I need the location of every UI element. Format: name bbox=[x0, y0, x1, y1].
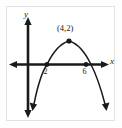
parabola-right-arrow-icon bbox=[102, 102, 110, 111]
y-axis-down-arrow-icon bbox=[24, 110, 31, 118]
x-axis-left-arrow-icon bbox=[9, 61, 17, 68]
vertex-point-marker bbox=[66, 38, 71, 43]
x-axis-label: x bbox=[109, 56, 114, 66]
x-intercept-right-label: 6 bbox=[83, 67, 87, 76]
vertex-label: (4,2) bbox=[57, 23, 73, 33]
figure-screenshot: (4,2) 2 6 x y bbox=[0, 0, 122, 128]
x-intercept-left-label: 2 bbox=[44, 67, 48, 76]
x-axis-right-arrow-icon bbox=[101, 61, 109, 68]
parabola-graph: (4,2) 2 6 x y bbox=[0, 0, 122, 128]
y-axis-label: y bbox=[23, 9, 28, 19]
parabola-left-arrow-icon bbox=[30, 103, 37, 111]
